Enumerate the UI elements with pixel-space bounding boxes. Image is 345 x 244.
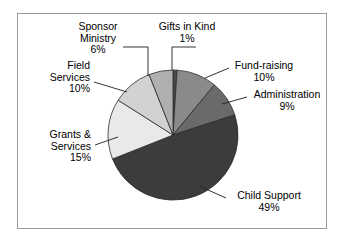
slice-label-child-support-line1: Child Support — [228, 190, 310, 202]
slice-label-administration-line1: Administration — [248, 89, 326, 101]
slice-label-gifts-in-kind: Gifts in Kind 1% — [149, 21, 225, 44]
slice-label-fund-raising: Fund-raising 10% — [228, 60, 300, 83]
slice-label-sponsor-ministry-value: 6% — [71, 44, 125, 56]
slice-label-field-services: Field Services 10% — [26, 60, 90, 95]
slice-label-field-services-value: 10% — [26, 83, 90, 95]
pie-slices — [108, 70, 238, 200]
slice-label-child-support: Child Support 49% — [228, 190, 310, 213]
slice-label-field-services-line1: Field — [26, 60, 90, 72]
slice-label-sponsor-ministry-line1: Sponsor — [71, 21, 125, 33]
slice-label-fund-raising-value: 10% — [228, 72, 300, 84]
slice-label-sponsor-ministry: Sponsor Ministry 6% — [71, 21, 125, 56]
leader-line-gifts-in-kind — [172, 47, 196, 70]
slice-label-gifts-in-kind-line1: Gifts in Kind — [149, 21, 225, 33]
slice-label-administration: Administration 9% — [248, 89, 326, 112]
leader-line-fund-raising — [205, 68, 229, 78]
slice-label-grants-services-line1: Grants & — [27, 129, 91, 141]
slice-label-grants-services-value: 15% — [27, 152, 91, 164]
leader-line-sponsor-ministry — [123, 47, 148, 76]
leader-line-field-services — [94, 82, 127, 92]
slice-label-fund-raising-line1: Fund-raising — [228, 60, 300, 72]
slice-label-administration-value: 9% — [248, 101, 326, 113]
slice-label-child-support-value: 49% — [228, 202, 310, 214]
pie-chart-figure: Sponsor Ministry 6% Gifts in Kind 1% Fun… — [0, 0, 345, 244]
slice-label-grants-services: Grants & Services 15% — [27, 129, 91, 164]
slice-label-gifts-in-kind-value: 1% — [149, 33, 225, 45]
